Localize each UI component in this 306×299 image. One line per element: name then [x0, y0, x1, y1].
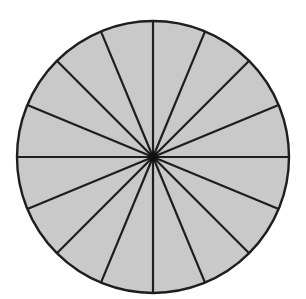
diagram-canvas — [0, 0, 306, 299]
divided-circle — [0, 0, 306, 299]
center-point — [149, 153, 158, 162]
